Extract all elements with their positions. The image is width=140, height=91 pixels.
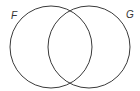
set-f-circle: [10, 6, 92, 88]
venn-diagram: F G: [0, 0, 140, 91]
set-f-label: F: [11, 10, 18, 21]
set-g-label: G: [126, 9, 134, 20]
set-g-circle: [48, 6, 130, 88]
